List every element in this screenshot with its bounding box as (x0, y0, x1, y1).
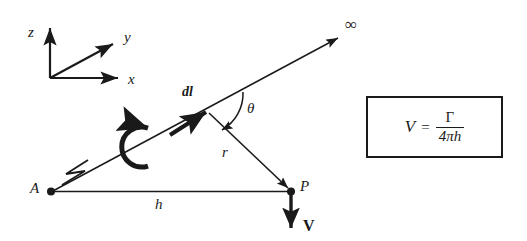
velocity-label: V (303, 218, 315, 234)
theta-label: θ (247, 101, 254, 116)
h-length-label: h (155, 197, 163, 212)
formula-numerator: Γ (443, 110, 458, 127)
figure-canvas: z y x A P ∞ h r dl θ V V = Γ 4πh (0, 0, 527, 241)
infinity-label: ∞ (345, 16, 357, 33)
dl-vector (170, 112, 206, 135)
filament-line-to-infinity (51, 38, 338, 192)
point-a-label: A (30, 181, 39, 196)
y-axis (50, 44, 113, 78)
point-a-dot (47, 188, 55, 196)
formula-equals-sign: = (421, 119, 429, 136)
formula-content: V = Γ 4πh (368, 98, 501, 156)
theta-arc (222, 92, 243, 130)
r-length-label: r (222, 145, 228, 160)
formula-denominator: 4πh (436, 128, 465, 145)
formula-fraction: Γ 4πh (436, 110, 465, 145)
point-p-label: P (300, 179, 309, 194)
r-vector (209, 113, 288, 188)
angle-zigzag-marker (62, 160, 88, 185)
point-p-dot (287, 188, 295, 196)
formula-variable: V (405, 117, 415, 137)
y-axis-label: y (124, 30, 131, 45)
dl-label: dl (182, 85, 193, 99)
coordinate-axes (50, 28, 118, 78)
x-axis-label: x (128, 72, 135, 87)
z-axis-label: z (28, 25, 34, 40)
formula-box: V = Γ 4πh (366, 96, 503, 158)
